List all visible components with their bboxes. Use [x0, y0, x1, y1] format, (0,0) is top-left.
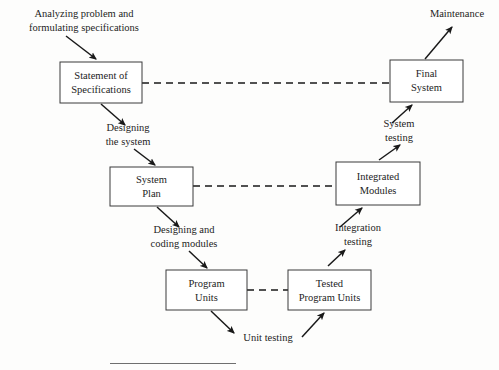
node-program-units[interactable]: Program Units — [166, 270, 247, 310]
node-box — [336, 162, 420, 205]
node-label-line2: Specifications — [71, 84, 130, 95]
node-integrated-modules[interactable]: Integrated Modules — [336, 162, 420, 205]
edge-label-line1: Designing — [106, 122, 150, 133]
arrow-designing-to-plan — [134, 149, 155, 165]
arrow-integrated-to-system-testing — [379, 145, 400, 160]
edge-label-line2: testing — [385, 132, 414, 143]
edge-label-line2: coding modules — [151, 238, 218, 249]
node-box — [390, 60, 463, 102]
edge-label-line2: formulating specifications — [29, 22, 139, 33]
node-label-line1: Statement of — [74, 70, 128, 81]
node-final-system[interactable]: Final System — [390, 60, 463, 102]
label-system-testing: System testing — [384, 118, 415, 143]
node-statement-of-specifications[interactable]: Statement of Specifications — [60, 62, 142, 103]
label-analyzing-problem: Analyzing problem and formulating specif… — [29, 8, 139, 33]
edge-label-line1: Maintenance — [430, 8, 485, 19]
edge-label-line1: Unit testing — [243, 332, 293, 343]
diagram-svg: Statement of Specifications Final System… — [0, 0, 499, 370]
node-label-line1: Tested — [316, 278, 344, 289]
node-label-line1: Final — [416, 68, 438, 79]
node-tested-program-units[interactable]: Tested Program Units — [288, 270, 371, 310]
edge-label-line2: testing — [344, 236, 373, 247]
arrow-unit-testing-to-tested — [302, 313, 324, 337]
edge-label-line1: Designing and — [154, 224, 216, 235]
label-designing-coding-modules: Designing and coding modules — [151, 224, 218, 249]
arrow-analyzing-to-spec — [66, 36, 96, 59]
node-box — [166, 270, 247, 310]
node-label-line1: Program — [188, 278, 224, 289]
node-label-line1: System — [136, 174, 167, 185]
node-label-line2: System — [411, 82, 442, 93]
arrow-program-to-unit-testing — [211, 311, 234, 333]
node-label-line2: Plan — [142, 188, 161, 199]
label-unit-testing: Unit testing — [243, 332, 293, 343]
arrow-tested-to-integration — [328, 250, 345, 266]
edge-label-line2: the system — [106, 136, 151, 147]
node-label-line2: Units — [195, 292, 218, 303]
node-box — [288, 270, 371, 310]
node-label-line2: Program Units — [299, 292, 361, 303]
flow-diagram-canvas: Statement of Specifications Final System… — [0, 0, 499, 370]
arrow-final-to-maintenance — [425, 27, 452, 59]
node-system-plan[interactable]: System Plan — [110, 167, 193, 206]
label-maintenance: Maintenance — [430, 8, 485, 19]
node-box — [60, 62, 142, 103]
edge-label-line1: System — [384, 118, 415, 129]
label-integration-testing: Integration testing — [335, 222, 382, 247]
edge-label-line1: Integration — [335, 222, 382, 233]
arrow-coding-to-program — [189, 251, 207, 268]
edge-label-line1: Analyzing problem and — [34, 8, 134, 19]
node-label-line2: Modules — [360, 185, 397, 196]
label-designing-the-system: Designing the system — [106, 122, 151, 147]
node-label-line1: Integrated — [357, 171, 400, 182]
node-box — [110, 167, 193, 206]
